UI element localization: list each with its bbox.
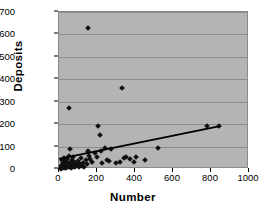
y-axis-tick-mark [54, 11, 58, 12]
x-axis-tick-label: 1000 [228, 172, 266, 183]
y-axis-title: Deposits [12, 26, 24, 106]
y-axis-tick-label: 700 [0, 6, 15, 17]
plot-area [58, 11, 248, 168]
trend-line [59, 12, 249, 169]
y-axis-tick-label: 100 [0, 140, 15, 151]
x-axis-tick-label: 200 [76, 172, 116, 183]
x-axis-title: Number [0, 191, 266, 203]
scatter-chart: 0100200300400500600700 02004006008001000… [0, 0, 266, 219]
y-axis-tick-mark [54, 33, 58, 34]
x-axis-tick-mark [96, 168, 97, 172]
y-axis-tick-mark [54, 100, 58, 101]
y-axis-tick-mark [54, 123, 58, 124]
y-axis-tick-mark [54, 55, 58, 56]
x-axis-tick-label: 800 [190, 172, 230, 183]
x-axis-tick-label: 400 [114, 172, 154, 183]
x-axis-tick-mark [248, 168, 249, 172]
x-axis-tick-label: 600 [152, 172, 192, 183]
y-axis-tick-label: 200 [0, 118, 15, 129]
x-axis-tick-mark [172, 168, 173, 172]
x-axis-tick-mark [58, 168, 59, 172]
x-axis-tick-mark [210, 168, 211, 172]
y-axis-tick-mark [54, 78, 58, 79]
y-axis-tick-label: 0 [0, 163, 15, 174]
x-axis-tick-label: 0 [38, 172, 78, 183]
y-axis-tick-mark [54, 145, 58, 146]
x-axis-tick-mark [134, 168, 135, 172]
